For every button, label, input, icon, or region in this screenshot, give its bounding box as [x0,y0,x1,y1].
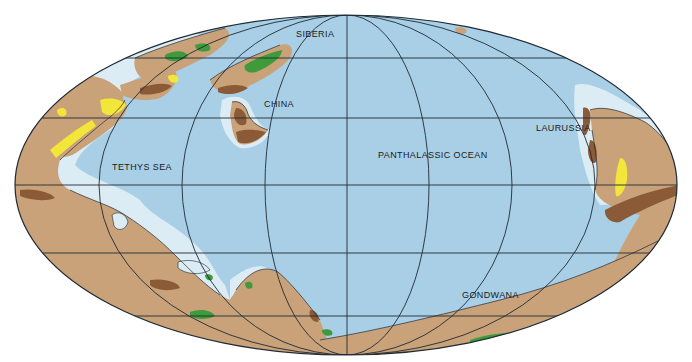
label-china: CHINA [264,100,294,109]
label-tethys-sea: TETHYS SEA [112,163,172,172]
paleogeographic-world-map [0,0,692,362]
label-siberia: SIBERIA [296,30,334,39]
label-laurussia: LAURUSSIA [536,124,591,133]
label-panthalassic-ocean: PANTHALASSIC OCEAN [378,151,488,160]
label-gondwana: GONDWANA [462,291,519,300]
